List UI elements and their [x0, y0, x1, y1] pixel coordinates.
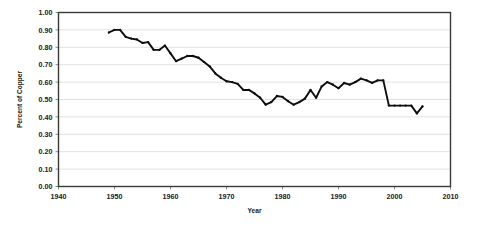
data-point-marker	[153, 49, 155, 51]
data-point-marker	[237, 83, 239, 85]
data-point-marker	[410, 104, 412, 106]
data-point-marker	[309, 89, 311, 91]
y-tick-label: 0.70	[39, 60, 53, 69]
data-point-marker	[164, 44, 166, 46]
data-point-marker	[343, 82, 345, 84]
x-axis-title: Year	[248, 207, 262, 214]
x-tick-label: 1990	[331, 192, 347, 201]
data-point-marker	[365, 79, 367, 81]
y-tick-label: 0.00	[39, 182, 53, 191]
data-point-marker	[382, 79, 384, 81]
data-point-marker	[125, 36, 127, 38]
y-tick-label: 0.90	[39, 26, 53, 35]
data-point-marker	[281, 96, 283, 98]
data-point-marker	[388, 104, 390, 106]
y-tick-label: 1.00	[39, 8, 53, 17]
data-point-marker	[270, 101, 272, 103]
data-point-marker	[130, 37, 132, 39]
data-point-marker	[141, 42, 143, 44]
data-point-marker	[248, 89, 250, 91]
x-tick-label: 1980	[275, 192, 291, 201]
data-point-marker	[421, 105, 423, 107]
x-tick-label: 2010	[443, 192, 459, 201]
x-tick-label: 1970	[219, 192, 235, 201]
x-tick-label: 1950	[107, 192, 123, 201]
y-tick-label: 0.10	[39, 165, 53, 174]
data-point-marker	[147, 41, 149, 43]
x-axis-tick-labels: 19401950196019701980199020002010	[51, 192, 459, 201]
y-axis-title: Percent of Copper	[16, 70, 24, 128]
y-tick-label: 0.40	[39, 113, 53, 122]
data-point-marker	[405, 104, 407, 106]
y-tick-label: 0.20	[39, 147, 53, 156]
data-point-marker	[377, 79, 379, 81]
data-point-marker	[360, 77, 362, 79]
chart-canvas: 0.000.100.200.300.400.500.600.700.800.90…	[0, 0, 478, 227]
data-point-marker	[203, 61, 205, 63]
data-point-marker	[371, 82, 373, 84]
data-point-marker	[393, 104, 395, 106]
data-point-marker	[242, 89, 244, 91]
x-tick-label: 1940	[51, 192, 67, 201]
data-point-marker	[332, 84, 334, 86]
data-point-marker	[326, 81, 328, 83]
data-point-marker	[304, 97, 306, 99]
data-point-marker	[220, 77, 222, 79]
data-point-marker	[354, 81, 356, 83]
data-point-marker	[225, 80, 227, 82]
data-point-marker	[259, 97, 261, 99]
data-point-marker	[186, 55, 188, 57]
y-tick-label: 0.60	[39, 78, 53, 87]
data-point-marker	[399, 104, 401, 106]
data-point-marker	[321, 85, 323, 87]
data-series-line	[109, 30, 423, 114]
x-tick-label: 1960	[163, 192, 179, 201]
data-point-marker	[113, 29, 115, 31]
data-point-marker	[192, 55, 194, 57]
data-point-marker	[119, 29, 121, 31]
data-point-marker	[197, 57, 199, 59]
data-point-marker	[337, 87, 339, 89]
data-point-marker	[315, 97, 317, 99]
data-point-marker	[108, 31, 110, 33]
gridlines	[59, 30, 451, 169]
data-point-marker	[293, 104, 295, 106]
axis-tickmarks	[56, 13, 451, 190]
y-tick-label: 0.80	[39, 43, 53, 52]
data-point-marker	[265, 104, 267, 106]
data-point-marker	[287, 100, 289, 102]
data-point-marker	[231, 81, 233, 83]
data-point-marker	[169, 52, 171, 54]
data-point-marker	[253, 92, 255, 94]
y-axis-tick-labels: 0.000.100.200.300.400.500.600.700.800.90…	[39, 8, 53, 191]
data-point-markers	[108, 29, 424, 115]
data-point-marker	[349, 84, 351, 86]
data-point-marker	[158, 49, 160, 51]
data-point-marker	[136, 38, 138, 40]
data-point-marker	[416, 112, 418, 114]
x-tick-label: 2000	[387, 192, 403, 201]
data-point-marker	[181, 57, 183, 59]
y-tick-label: 0.30	[39, 130, 53, 139]
data-point-marker	[276, 95, 278, 97]
data-point-marker	[298, 101, 300, 103]
data-point-marker	[214, 72, 216, 74]
chart-figure: 0.000.100.200.300.400.500.600.700.800.90…	[0, 0, 478, 227]
y-tick-label: 0.50	[39, 95, 53, 104]
data-point-marker	[175, 60, 177, 62]
data-point-marker	[209, 65, 211, 67]
